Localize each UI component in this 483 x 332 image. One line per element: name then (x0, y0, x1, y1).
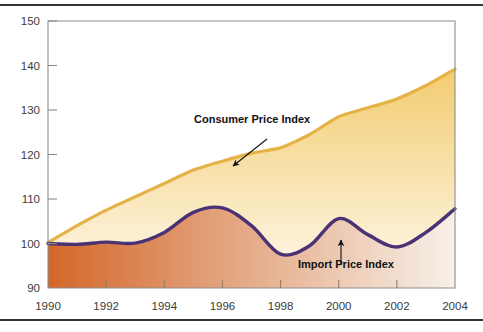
chart-figure: 90100110120130140150 1990199219941996199… (0, 0, 483, 332)
x-tick-label: 1990 (35, 300, 61, 312)
x-tick-label: 1992 (93, 300, 119, 312)
y-tick-label: 110 (22, 193, 40, 205)
y-tick-label: 100 (21, 238, 40, 250)
series-fills (48, 69, 455, 288)
y-tick-label: 130 (21, 104, 40, 116)
y-tick-label: 90 (27, 282, 40, 294)
series-annotation-label: Import Price Index (298, 258, 395, 270)
y-tick-label: 150 (21, 15, 40, 27)
x-tick-label: 1998 (268, 300, 294, 312)
x-tick-label: 1994 (151, 300, 177, 312)
series-annotation-label: Consumer Price Index (194, 113, 311, 125)
x-tick-label: 2004 (442, 300, 468, 312)
x-tick-label: 1996 (210, 300, 236, 312)
x-tick-label: 2000 (326, 300, 352, 312)
bottom-divider-rule (0, 319, 483, 321)
y-axis-ticks (48, 21, 57, 244)
top-divider-rule (0, 4, 483, 6)
plot-container: 90100110120130140150 1990199219941996199… (0, 8, 483, 314)
x-axis-tick-labels: 19901992199419961998200020022004 (35, 300, 468, 312)
y-tick-label: 140 (21, 60, 40, 72)
y-axis-tick-labels: 90100110120130140150 (21, 15, 40, 294)
y-tick-label: 120 (21, 149, 40, 161)
area-chart-svg: 90100110120130140150 1990199219941996199… (0, 8, 483, 314)
x-tick-label: 2002 (384, 300, 410, 312)
